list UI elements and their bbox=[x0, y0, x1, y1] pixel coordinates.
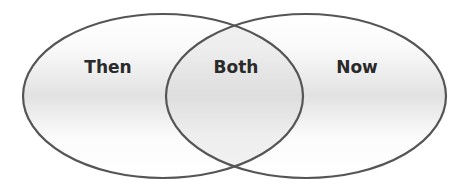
set-label-now: Now bbox=[336, 57, 378, 77]
venn-diagram bbox=[0, 0, 472, 186]
intersection-label: Both bbox=[214, 57, 259, 77]
set-label-then: Then bbox=[84, 57, 131, 77]
